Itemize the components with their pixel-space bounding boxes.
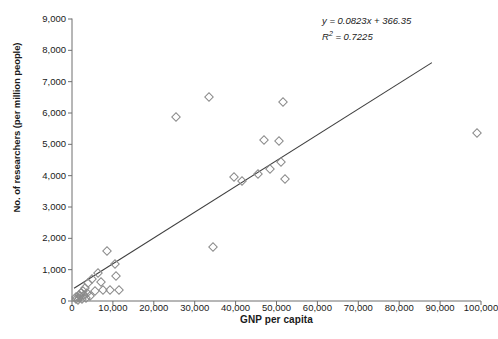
data-point — [111, 271, 121, 281]
y-tick-label: 3,000 — [42, 202, 66, 212]
y-axis-title: No. of researchers (per million people) — [11, 0, 22, 258]
x-axis-title: GNP per capita — [72, 314, 481, 325]
x-tick-label: 0 — [69, 303, 74, 313]
r-squared-line: R2 = 0.7225 — [322, 27, 411, 43]
data-point — [276, 157, 286, 167]
data-point — [472, 128, 482, 138]
x-tick-label: 80,000 — [385, 303, 414, 313]
y-tick-label: 1,000 — [42, 265, 66, 275]
data-point — [208, 242, 218, 252]
data-point — [171, 112, 181, 122]
y-tick-label: 4,000 — [42, 171, 66, 181]
data-point — [278, 97, 288, 107]
r-squared-label: R — [322, 31, 329, 42]
data-point — [265, 164, 275, 174]
x-tick-label: 30,000 — [180, 303, 209, 313]
y-tick-label: 5,000 — [42, 139, 66, 149]
y-tick-label: 9,000 — [42, 14, 66, 24]
x-tick-label: 60,000 — [303, 303, 332, 313]
x-tick-label: 40,000 — [221, 303, 250, 313]
x-tick-label: 100,000 — [464, 303, 498, 313]
data-point — [259, 135, 269, 145]
data-point — [253, 169, 263, 179]
data-point — [274, 136, 284, 146]
r-squared-value: = 0.7225 — [333, 31, 373, 42]
regression-annotation: y = 0.0823x + 366.35 R2 = 0.7225 — [322, 14, 411, 43]
data-point — [237, 176, 247, 186]
y-tick-label: 7,000 — [42, 77, 66, 87]
data-point — [102, 247, 112, 257]
data-point — [280, 174, 290, 184]
y-tick-label: 8,000 — [42, 45, 66, 55]
regression-equation: y = 0.0823x + 366.35 — [322, 14, 411, 27]
data-point — [110, 259, 120, 269]
y-tick-label: 6,000 — [42, 108, 66, 118]
x-tick-label: 90,000 — [426, 303, 455, 313]
plot-area — [72, 19, 481, 301]
y-tick-label: 2,000 — [42, 233, 66, 243]
x-tick-label: 10,000 — [98, 303, 127, 313]
x-tick-label: 20,000 — [139, 303, 168, 313]
x-tick-label: 70,000 — [344, 303, 373, 313]
data-point — [204, 92, 214, 102]
data-point — [114, 285, 124, 295]
x-tick-label: 50,000 — [262, 303, 291, 313]
